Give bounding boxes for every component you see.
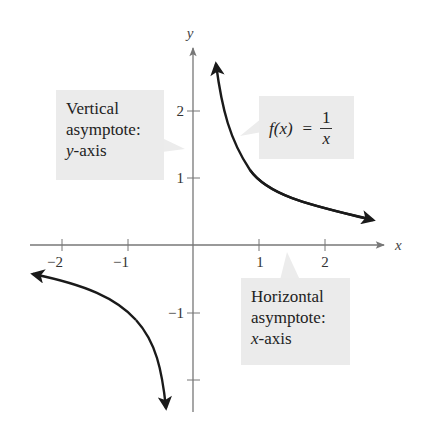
- x-tick-label-1: 1: [256, 254, 264, 270]
- vertical-callout-line3: y-axis: [66, 140, 158, 161]
- hyperbola-graph: −2 −1 1 2 2 1 −1 x y: [0, 0, 435, 435]
- function-lhs: f(x): [269, 118, 293, 139]
- vertical-callout-pointer: [162, 138, 185, 152]
- curve-branch-negative: [33, 274, 136, 320]
- horizontal-asymptote-callout: Horizontal asymptote: x-axis: [241, 278, 350, 365]
- x-tick-label-2: 2: [321, 254, 329, 270]
- y-axis-label: y: [185, 25, 194, 41]
- horizontal-callout-pointer: [280, 252, 300, 280]
- fraction-numerator: 1: [320, 109, 332, 127]
- horizontal-callout-line3: x-axis: [251, 328, 344, 349]
- y-tick-label-2: 2: [177, 103, 185, 119]
- x-tick-label-neg2: −2: [47, 254, 63, 270]
- horizontal-callout-line1: Horizontal: [251, 286, 344, 307]
- x-tick-label-neg1: −1: [113, 254, 129, 270]
- x-axis-label: x: [394, 237, 402, 253]
- curve-branch-negative-end: [136, 320, 166, 408]
- vertical-asymptote-callout: Vertical asymptote: y-axis: [56, 90, 164, 180]
- vertical-callout-line2: asymptote:: [66, 119, 158, 140]
- fraction-denominator: x: [320, 130, 332, 148]
- function-label-callout: f(x) = 1 x: [259, 96, 354, 159]
- function-fraction: 1 x: [320, 109, 332, 148]
- y-tick-label-neg1: −1: [168, 305, 184, 321]
- function-equals: =: [303, 118, 313, 139]
- horizontal-callout-line2: asymptote:: [251, 307, 344, 328]
- curve-branch-positive-end: [250, 170, 373, 220]
- vertical-callout-line1: Vertical: [66, 98, 158, 119]
- y-tick-label-1: 1: [177, 170, 185, 186]
